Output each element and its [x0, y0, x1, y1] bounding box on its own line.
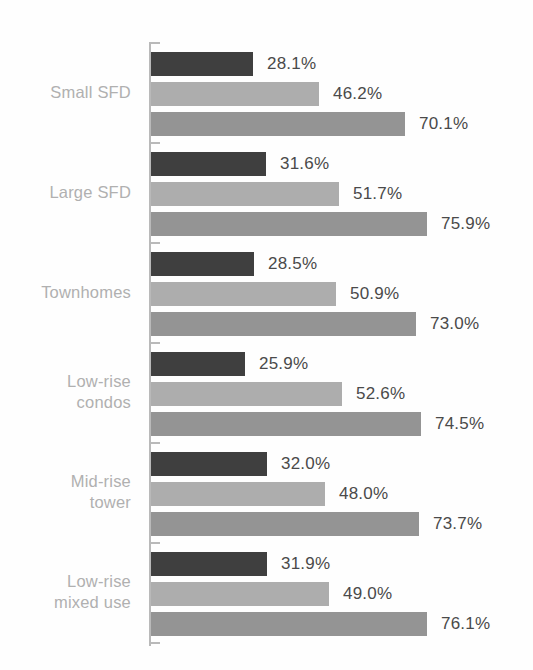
bar-value-label: 73.7%	[433, 513, 482, 535]
bar[interactable]	[151, 182, 339, 206]
category-label: Large SFD	[0, 182, 131, 203]
bar-value-label: 51.7%	[353, 183, 402, 205]
bar-value-label: 31.9%	[281, 553, 330, 575]
bar-value-label: 75.9%	[441, 213, 490, 235]
bar-group: Townhomes28.5%50.9%73.0%	[0, 242, 533, 342]
bar[interactable]	[151, 112, 405, 136]
bar-value-label: 31.6%	[280, 153, 329, 175]
category-label: Small SFD	[0, 82, 131, 103]
bar-value-label: 28.1%	[267, 53, 316, 75]
bar[interactable]	[151, 512, 419, 536]
bar[interactable]	[151, 382, 342, 406]
category-label-line: Small SFD	[0, 82, 131, 103]
bar-value-label: 74.5%	[435, 413, 484, 435]
bar[interactable]	[151, 152, 266, 176]
bar[interactable]	[151, 452, 267, 476]
category-label-line: Low-rise	[0, 371, 131, 392]
bar[interactable]	[151, 312, 416, 336]
bar-chart: Small SFD28.1%46.2%70.1%Large SFD31.6%51…	[0, 0, 533, 670]
bar-value-label: 28.5%	[268, 253, 317, 275]
bar[interactable]	[151, 552, 267, 576]
bar-value-label: 46.2%	[333, 83, 382, 105]
bar-value-label: 50.9%	[350, 283, 399, 305]
category-label: Townhomes	[0, 282, 131, 303]
category-label: Low-risemixed use	[0, 571, 131, 613]
bar-group: Low-risecondos25.9%52.6%74.5%	[0, 342, 533, 442]
bar[interactable]	[151, 252, 254, 276]
bar-value-label: 32.0%	[281, 453, 330, 475]
bar[interactable]	[151, 582, 329, 606]
bar-value-label: 76.1%	[441, 613, 490, 635]
category-label: Mid-risetower	[0, 471, 131, 513]
category-label-line: Mid-rise	[0, 471, 131, 492]
bar[interactable]	[151, 282, 336, 306]
bar-group: Small SFD28.1%46.2%70.1%	[0, 42, 533, 142]
bar[interactable]	[151, 352, 245, 376]
category-label-line: Large SFD	[0, 182, 131, 203]
category-label-line: tower	[0, 492, 131, 513]
category-label: Low-risecondos	[0, 371, 131, 413]
bar-value-label: 25.9%	[259, 353, 308, 375]
bar-group: Mid-risetower32.0%48.0%73.7%	[0, 442, 533, 542]
bar[interactable]	[151, 482, 325, 506]
bar-group: Large SFD31.6%51.7%75.9%	[0, 142, 533, 242]
category-label-line: mixed use	[0, 592, 131, 613]
bar-value-label: 49.0%	[343, 583, 392, 605]
category-label-line: Low-rise	[0, 571, 131, 592]
axis-tick	[149, 642, 160, 644]
bar[interactable]	[151, 412, 421, 436]
bar[interactable]	[151, 82, 319, 106]
category-label-line: Townhomes	[0, 282, 131, 303]
bar[interactable]	[151, 52, 253, 76]
bar-value-label: 73.0%	[430, 313, 479, 335]
bar-value-label: 52.6%	[356, 383, 405, 405]
bar-value-label: 70.1%	[419, 113, 468, 135]
category-label-line: condos	[0, 392, 131, 413]
bar-value-label: 48.0%	[339, 483, 388, 505]
bar[interactable]	[151, 612, 427, 636]
bar-group: Low-risemixed use31.9%49.0%76.1%	[0, 542, 533, 642]
bar[interactable]	[151, 212, 427, 236]
